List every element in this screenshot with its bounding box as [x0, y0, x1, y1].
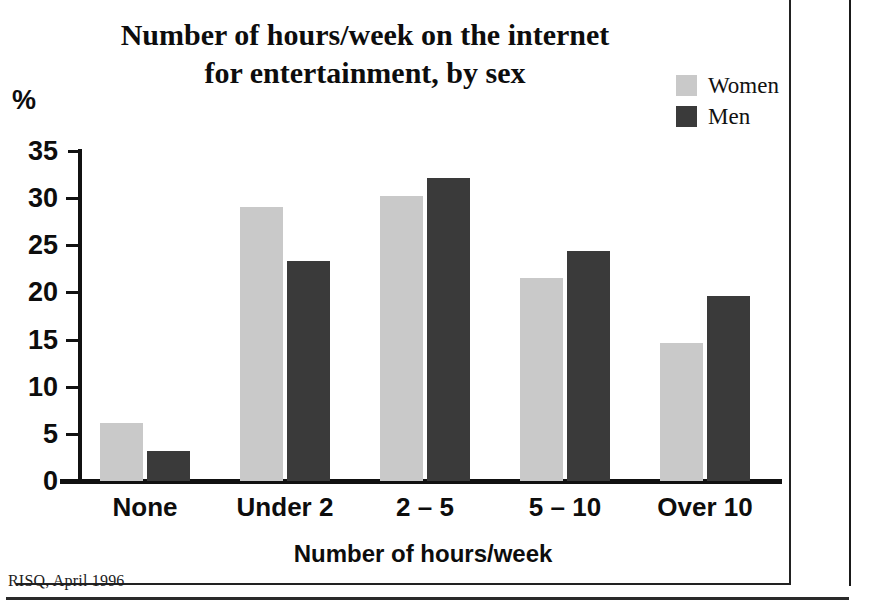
legend-swatch-men-icon [676, 106, 697, 127]
chart-title: Number of hours/week on the internet for… [70, 16, 660, 92]
legend-item-men: Men [676, 101, 779, 132]
bar-men-under-2 [287, 261, 330, 481]
y-axis-tick-label-20: 20 [0, 277, 58, 308]
legend-label-women: Women [708, 73, 779, 99]
y-axis-tick-label-30: 30 [0, 183, 58, 214]
plot-area [78, 151, 768, 481]
chart-page: Number of hours/week on the internet for… [0, 0, 874, 612]
y-axis-tick-label-0: 0 [0, 466, 58, 497]
y-axis-tick-label-15: 15 [0, 324, 58, 355]
chart-legend: Women Men [676, 70, 779, 132]
source-rule [6, 597, 849, 600]
page-frame-right-border [849, 0, 851, 586]
bar-men-2-to-5 [427, 178, 470, 481]
bar-men-5-to-10 [567, 251, 610, 481]
y-axis-tick-labels: 05101520253035 [0, 0, 58, 612]
bar-women-under-2 [240, 207, 283, 481]
bar-women-2-to-5 [380, 196, 423, 481]
y-axis-tick-label-10: 10 [0, 371, 58, 402]
bar-women-5-to-10 [520, 278, 563, 481]
bar-men-over-10 [707, 296, 750, 481]
y-axis-tick-label-5: 5 [0, 418, 58, 449]
x-axis-title: Number of hours/week [78, 540, 768, 568]
chart-title-line-1: Number of hours/week on the internet [70, 16, 660, 54]
chart-title-line-2: for entertainment, by sex [70, 54, 660, 92]
bar-men-none [147, 451, 190, 481]
source-note: RISQ, April 1996 [8, 572, 125, 590]
x-axis-category-label-4: Over 10 [615, 492, 795, 523]
bar-women-over-10 [660, 343, 703, 481]
bar-women-none [100, 423, 143, 481]
legend-label-men: Men [708, 104, 750, 130]
y-axis-tick-label-35: 35 [0, 136, 58, 167]
bars-layer [78, 151, 768, 481]
y-axis-tick-label-25: 25 [0, 230, 58, 261]
legend-item-women: Women [676, 70, 779, 101]
legend-swatch-women-icon [676, 75, 697, 96]
chart-frame-bottom-border [16, 583, 791, 585]
